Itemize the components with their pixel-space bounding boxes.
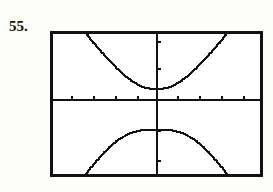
problem-number-label: 55.	[9, 19, 28, 34]
plot-svg	[50, 31, 263, 177]
page-canvas: 55.	[0, 0, 273, 192]
graphing-calculator-screen	[50, 31, 263, 177]
